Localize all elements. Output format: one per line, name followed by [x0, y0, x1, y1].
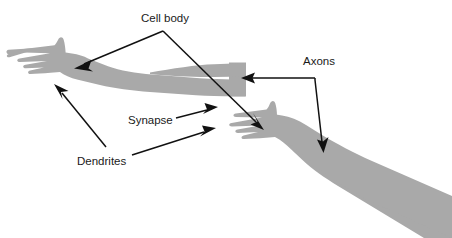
- synapse-leader-line: [176, 110, 207, 118]
- label-synapse: Synapse: [128, 114, 173, 126]
- synapse-leader: [176, 103, 218, 118]
- limb-shapes: [6, 37, 452, 238]
- label-axons: Axons: [303, 55, 335, 67]
- dendrites-leader-upper-line: [62, 93, 106, 147]
- synapse-arrowhead: [203, 103, 218, 114]
- dendrites-arrowhead-upper: [54, 84, 69, 99]
- neuron-arm-diagram: Cell body Axons Synapse Dendrites: [0, 0, 452, 238]
- diagram-canvas: Cell body Axons Synapse Dendrites: [0, 0, 452, 238]
- dendrites-leader-lower-line: [132, 132, 204, 155]
- label-dendrites: Dendrites: [77, 155, 126, 167]
- label-cell-body: Cell body: [141, 12, 189, 24]
- dendrites-arrowhead-lower: [200, 126, 216, 137]
- cell-body-leader-left-line: [84, 31, 163, 64]
- lower-forearm-shape: [276, 115, 452, 238]
